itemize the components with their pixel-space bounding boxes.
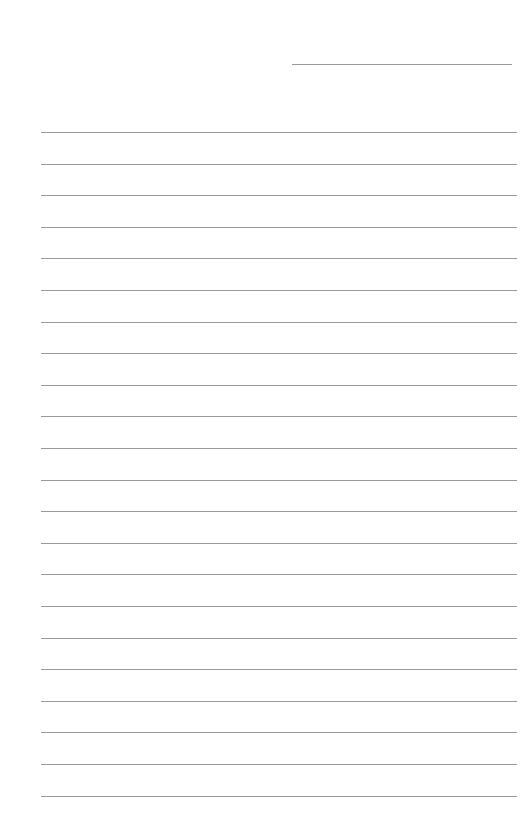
ruled-line <box>41 701 517 702</box>
ruled-line <box>41 448 517 449</box>
ruled-line <box>41 290 517 291</box>
ruled-line <box>41 543 517 544</box>
ruled-line <box>41 764 517 765</box>
ruled-line <box>41 416 517 417</box>
ruled-line <box>41 638 517 639</box>
ruled-line <box>41 258 517 259</box>
ruled-line <box>41 574 517 575</box>
ruled-line <box>41 195 517 196</box>
ruled-line <box>41 353 517 354</box>
ruled-line <box>41 669 517 670</box>
ruled-line <box>41 732 517 733</box>
ruled-line <box>41 385 517 386</box>
ruled-line <box>41 132 517 133</box>
ruled-line <box>41 511 517 512</box>
ruled-line <box>41 322 517 323</box>
ruled-line <box>41 606 517 607</box>
ruled-line <box>41 796 517 797</box>
ruled-line <box>41 480 517 481</box>
ruled-line <box>41 164 517 165</box>
ruled-line <box>41 227 517 228</box>
header-line <box>292 64 512 65</box>
